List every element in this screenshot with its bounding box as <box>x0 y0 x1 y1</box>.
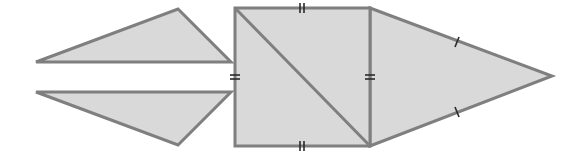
right-isosceles-triangle <box>370 8 552 146</box>
upper-left-triangle <box>36 9 231 62</box>
lower-left-triangle <box>36 92 231 145</box>
geometry-net-diagram <box>0 0 580 152</box>
